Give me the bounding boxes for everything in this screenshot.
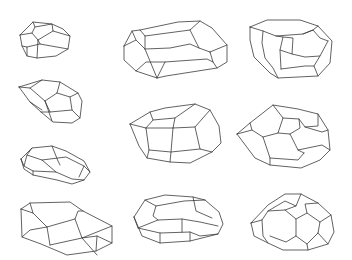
background xyxy=(0,0,352,260)
polyhedra-svg xyxy=(0,0,352,260)
polyhedra-figure xyxy=(0,0,352,260)
